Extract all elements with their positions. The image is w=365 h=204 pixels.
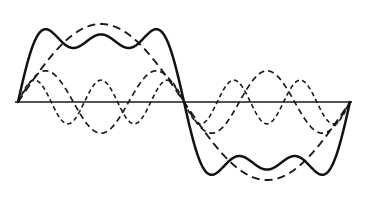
fourier-synthesis-figure xyxy=(0,0,365,204)
waveform-plot xyxy=(0,0,365,204)
